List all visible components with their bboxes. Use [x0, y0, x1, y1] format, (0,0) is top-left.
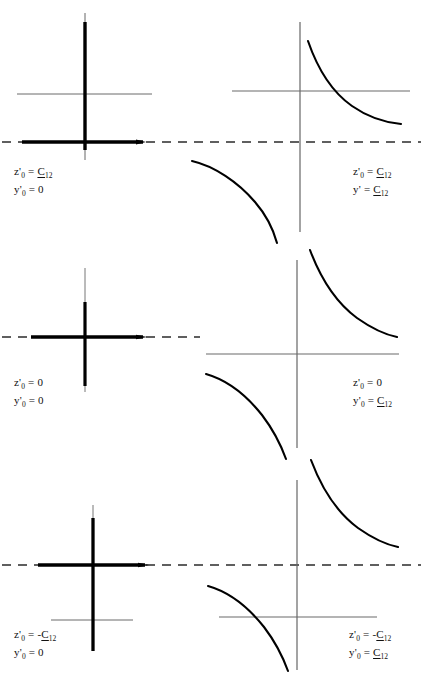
label-panel-middle-right-line1: z'0=0	[353, 374, 392, 392]
label-panel-top-left-line2: y'0=0	[14, 181, 52, 199]
label-panel-top-right: z'0=C12 y'=C12	[353, 163, 391, 199]
row-2-group	[2, 250, 399, 459]
label-panel-middle-left: z'0=0 y'0=0	[14, 374, 44, 410]
hyperbola-branch-lower-left-row2	[206, 374, 286, 459]
label-panel-bottom-left-line2: y'0=0	[14, 644, 56, 662]
label-panel-top-right-line1: z'0=C12	[353, 163, 391, 181]
label-panel-top-right-line2: y'=C12	[353, 181, 391, 199]
label-panel-middle-left-line2: y'0=0	[14, 392, 44, 410]
label-panel-top-left-line1: z'0=C12	[14, 163, 52, 181]
panel-middle-right-plot	[206, 250, 399, 459]
hyperbola-branch-lower-left-row1	[192, 161, 277, 243]
label-panel-bottom-left: z'0=-C12 y'0=0	[14, 626, 56, 662]
label-panel-middle-right: z'0=0 y'0=C12	[353, 374, 392, 410]
label-panel-top-left: z'0=C12 y'0=0	[14, 163, 52, 199]
label-panel-bottom-left-line1: z'0=-C12	[14, 626, 56, 644]
label-panel-bottom-right-line2: y'0=C12	[349, 644, 391, 662]
label-panel-bottom-right-line1: z'0=-C12	[349, 626, 391, 644]
label-panel-middle-left-line1: z'0=0	[14, 374, 44, 392]
panel-top-left-plot	[17, 13, 152, 160]
row-1-group	[2, 13, 421, 243]
hyperbola-branch-upper-right-row2	[310, 250, 397, 337]
label-panel-middle-right-line2: y'0=C12	[353, 392, 392, 410]
panel-middle-left-plot	[31, 268, 147, 392]
hyperbola-branch-upper-right-row3	[311, 460, 398, 547]
figure-canvas	[0, 0, 423, 674]
hyperbola-branch-lower-left-row3	[208, 586, 288, 671]
panel-top-right-plot	[192, 22, 410, 243]
figure-root: z'0=C12 y'0=0 z'0=C12 y'=C12 z'0=0 y'0=0…	[0, 0, 423, 674]
label-panel-bottom-right: z'0=-C12 y'0=C12	[349, 626, 391, 662]
hyperbola-branch-upper-right-row1	[308, 41, 401, 124]
